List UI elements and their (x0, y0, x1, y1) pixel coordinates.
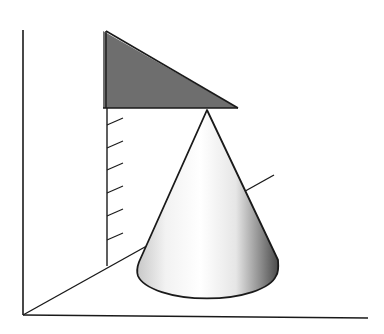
scale-tick (107, 209, 123, 216)
diagram-canvas (0, 0, 384, 334)
cone (137, 110, 278, 298)
scale-tick (107, 118, 123, 125)
floor-horizontal-axis (23, 315, 368, 318)
scale-tick (107, 186, 123, 193)
scale-tick (107, 141, 123, 148)
scale-tick (107, 163, 123, 170)
cone-projection-diagram (0, 0, 384, 334)
scale-tick (107, 233, 123, 240)
scale-ticks (107, 118, 123, 240)
